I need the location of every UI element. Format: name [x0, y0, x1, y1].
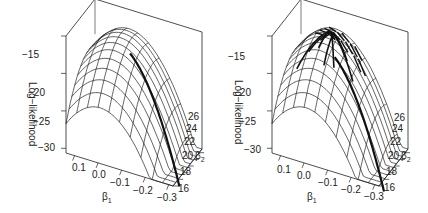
- z-tick: −15: [228, 52, 245, 62]
- x-axis-label: β1: [102, 192, 112, 204]
- y-tick: 26: [188, 112, 199, 122]
- z-tick: −30: [38, 143, 55, 153]
- right-surface-plot: −15 −20 −25 −30 Log−likelihood 0.1 0.0 −…: [214, 0, 428, 213]
- y-tick: 18: [180, 167, 191, 177]
- y-tick: 22: [390, 137, 401, 147]
- y-axis-label: β2: [195, 151, 205, 163]
- y-tick: 16: [178, 184, 189, 194]
- y-tick: 24: [392, 124, 403, 134]
- y-tick: 20: [182, 151, 193, 161]
- y-tick: 20: [388, 151, 399, 161]
- y-tick: 16: [384, 183, 395, 193]
- x-tick: −0.2: [133, 186, 153, 196]
- x-tick: −0.2: [341, 185, 361, 195]
- x-tick: 0.1: [277, 165, 291, 175]
- x-axis-label: β1: [307, 192, 317, 204]
- y-tick: 24: [186, 124, 197, 134]
- y-tick: 26: [394, 113, 405, 123]
- y-tick: 22: [184, 137, 195, 147]
- x-tick: 0.0: [92, 170, 106, 180]
- x-tick: 0.0: [297, 171, 311, 181]
- z-tick: −15: [22, 50, 39, 60]
- y-tick: 18: [386, 167, 397, 177]
- x-tick: −0.1: [318, 178, 338, 188]
- left-surface-plot: −15 −20 −25 −30 Log−likelihood 0.1 0.0 −…: [0, 0, 214, 213]
- y-axis-label: β2: [401, 151, 411, 163]
- z-axis-label: Log−likelihood: [27, 82, 38, 146]
- x-tick: 0.1: [72, 163, 86, 173]
- z-axis-label: Log−likelihood: [233, 80, 244, 144]
- x-tick: −0.3: [364, 192, 384, 202]
- z-tick: −30: [244, 145, 261, 155]
- x-tick: −0.3: [157, 193, 177, 203]
- x-tick: −0.1: [110, 178, 130, 188]
